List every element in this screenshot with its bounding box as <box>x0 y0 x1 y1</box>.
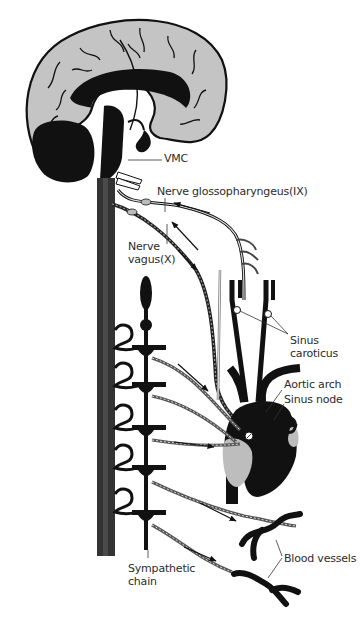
cerebellum <box>32 121 94 183</box>
label-vagus-nerve: Nerve vagus(X) <box>128 240 175 266</box>
carotid-sinus-right <box>265 311 272 318</box>
label-aortic-arch: Aortic arch <box>284 378 341 391</box>
ganglion <box>141 199 151 205</box>
vagus-nerve <box>112 204 252 430</box>
brainstem <box>100 106 124 180</box>
label-sinus-caroticus: Sinus caroticus <box>290 334 338 360</box>
baroreflex-diagram: VMC Nerve glossopharyngeus(IX) Nerve vag… <box>0 0 362 622</box>
pituitary <box>136 130 151 152</box>
carotid-sinus-left <box>234 307 241 314</box>
brain <box>27 20 227 182</box>
label-sympathetic-chain: Sympathetic chain <box>128 562 195 588</box>
cranial-nerve-roots <box>116 172 142 190</box>
label-vmc: VMC <box>164 152 188 165</box>
heart <box>223 401 299 504</box>
label-blood-vessels: Blood vessels <box>284 552 356 565</box>
label-glossopharyngeal-nerve: Nerve glossopharyngeus(IX) <box>157 185 308 198</box>
label-sinus-node: Sinus node <box>284 393 343 406</box>
blood-vessels-leader <box>276 540 282 556</box>
sympathetic-chain <box>115 276 166 550</box>
diagram-canvas <box>0 0 362 622</box>
